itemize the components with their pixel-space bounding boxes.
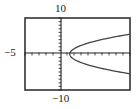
parabola-curve — [70, 34, 130, 74]
viewing-window-frame — [25, 18, 130, 90]
graph-canvas — [0, 0, 138, 109]
